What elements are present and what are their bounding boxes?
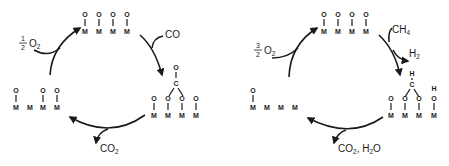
svg-text:O: O — [335, 11, 341, 18]
svg-text:O: O — [416, 95, 422, 102]
svg-text:2: 2 — [256, 51, 260, 58]
svg-text:O: O — [82, 11, 88, 18]
svg-text:O: O — [250, 87, 256, 94]
svg-text:O: O — [54, 87, 60, 94]
svg-text:O: O — [165, 95, 171, 102]
svg-text:M: M — [321, 28, 327, 35]
svg-text:M: M — [179, 112, 185, 119]
svg-text:M: M — [278, 104, 284, 111]
svg-text:M: M — [264, 104, 270, 111]
svg-text:O2: O2 — [29, 38, 41, 50]
svg-text:O: O — [151, 95, 157, 102]
svg-text:C: C — [173, 80, 178, 87]
svg-text:C: C — [409, 81, 414, 88]
co-top-state: O M O M O M O M — [82, 11, 130, 35]
svg-text:O: O — [388, 95, 394, 102]
svg-text:M: M — [402, 112, 408, 119]
svg-text:M: M — [416, 112, 422, 119]
ch4-reduced-state: O M M M M — [250, 87, 298, 111]
svg-text:2: 2 — [21, 44, 25, 51]
svg-text:M: M — [363, 28, 369, 35]
svg-text:M: M — [124, 28, 130, 35]
svg-text:O: O — [13, 87, 19, 94]
svg-text:O: O — [349, 11, 355, 18]
co-cycle: O M O M O M O M CO — [13, 11, 199, 155]
half-o2-label: 1 2 O2 — [19, 35, 41, 51]
svg-text:O: O — [179, 95, 185, 102]
svg-text:3: 3 — [256, 42, 260, 49]
svg-text:O: O — [173, 64, 179, 71]
co-reactant-label: CO — [165, 29, 180, 40]
co2-out-arrow — [96, 129, 108, 143]
svg-text:O: O — [193, 95, 199, 102]
co2-h2o-product-label: CO2, H2O — [338, 143, 381, 155]
co2-product-label: CO2 — [100, 143, 119, 155]
co-in-arrow — [152, 36, 163, 48]
svg-text:M: M — [250, 104, 256, 111]
svg-text:H: H — [431, 85, 436, 92]
svg-text:O: O — [431, 95, 437, 102]
svg-text:M: M — [165, 112, 171, 119]
svg-text:M: M — [96, 28, 102, 35]
ch4-arrow-bottom — [308, 117, 383, 129]
svg-text:O: O — [363, 11, 369, 18]
ch4-reactant-label: CH4 — [392, 24, 410, 36]
svg-text:1: 1 — [21, 35, 25, 42]
svg-text:O2: O2 — [264, 45, 276, 57]
h2-byproduct-label: H2 — [409, 48, 420, 60]
svg-text:M: M — [82, 28, 88, 35]
svg-text:M: M — [193, 112, 199, 119]
ch4-adsorbed-state: H C O M O M O M H O — [388, 70, 437, 119]
ch4-top-state: O M O M O M O M — [321, 11, 369, 35]
svg-text:O: O — [321, 11, 327, 18]
svg-text:M: M — [27, 104, 33, 111]
co2-h2o-out-arrow — [334, 130, 346, 143]
svg-text:O: O — [110, 11, 116, 18]
svg-text:M: M — [110, 28, 116, 35]
svg-text:O: O — [124, 11, 130, 18]
svg-text:O: O — [402, 95, 408, 102]
svg-text:M: M — [335, 28, 341, 35]
reaction-diagram: O M O M O M O M CO — [0, 0, 449, 166]
svg-text:M: M — [349, 28, 355, 35]
svg-text:M: M — [13, 104, 19, 111]
svg-text:M: M — [292, 104, 298, 111]
three-halves-o2-label: 3 2 O2 — [254, 42, 276, 58]
co-arrow-bottom — [70, 115, 145, 128]
svg-text:M: M — [431, 112, 437, 119]
svg-text:H: H — [409, 70, 414, 77]
ch4-cycle: O M O M O M O M CH4 — [250, 11, 437, 155]
svg-text:O: O — [96, 11, 102, 18]
svg-text:M: M — [388, 112, 394, 119]
svg-text:M: M — [151, 112, 157, 119]
svg-text:O: O — [40, 87, 46, 94]
svg-text:M: M — [54, 104, 60, 111]
co-arrow-right — [140, 35, 162, 75]
co-adsorbed-state: O C O M O M O M O M — [151, 64, 199, 119]
svg-text:M: M — [40, 104, 46, 111]
co-reduced-state: O M M O M O M — [13, 87, 60, 111]
